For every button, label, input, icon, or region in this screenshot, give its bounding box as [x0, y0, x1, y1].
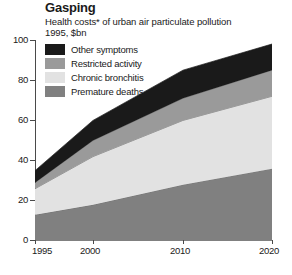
legend-swatch-icon-premature-deaths — [45, 86, 65, 97]
chart-header: Gasping Health costs* of urban air parti… — [45, 1, 290, 38]
chart-title: Gasping — [45, 1, 290, 15]
y-tick-label-0: 0 — [2, 235, 28, 245]
legend-label-premature-deaths: Premature deaths — [71, 86, 143, 97]
legend-item-other-symptoms: Other symptoms — [45, 43, 143, 56]
x-tick-label-2000: 2000 — [80, 246, 100, 256]
y-tick-label-80: 80 — [2, 75, 28, 85]
legend-item-restricted-activity: Restricted activity — [45, 57, 143, 70]
x-tick-2000 — [93, 240, 94, 244]
x-tick-label-1995: 1995 — [32, 246, 52, 256]
legend-swatch-icon-chronic-bronchitis — [45, 72, 65, 83]
y-tick-label-60: 60 — [2, 115, 28, 125]
x-tick-1995 — [35, 240, 36, 244]
x-tick-label-2010: 2010 — [170, 246, 190, 256]
y-tick-label-20: 20 — [2, 195, 28, 205]
legend-label-restricted-activity: Restricted activity — [71, 58, 142, 69]
x-tick-2020 — [272, 240, 273, 244]
y-tick-label-40: 40 — [2, 155, 28, 165]
y-tick-label-100: 100 — [2, 35, 28, 45]
legend-swatch-icon-restricted-activity — [45, 58, 65, 69]
legend-item-premature-deaths: Premature deaths — [45, 85, 143, 98]
chart-container: Gasping Health costs* of urban air parti… — [0, 0, 292, 275]
x-tick-2010 — [183, 240, 184, 244]
chart-subtitle: Health costs* of urban air particulate p… — [45, 16, 290, 27]
legend-item-chronic-bronchitis: Chronic bronchitis — [45, 71, 143, 84]
legend-label-chronic-bronchitis: Chronic bronchitis — [71, 72, 143, 83]
legend-label-other-symptoms: Other symptoms — [71, 44, 138, 55]
legend-swatch-icon-other-symptoms — [45, 44, 65, 55]
x-tick-label-2020: 2020 — [259, 246, 279, 256]
chart-subtitle-text: Health costs* of urban air particulate p… — [45, 16, 231, 27]
chart-units-label: 1995, $bn — [45, 27, 290, 38]
y-axis-labels: 100 80 60 40 20 0 — [0, 40, 28, 241]
chart-legend: Other symptoms Restricted activity Chron… — [45, 43, 143, 99]
